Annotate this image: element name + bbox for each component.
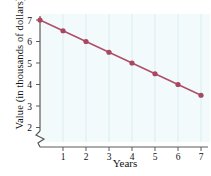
data-point: [129, 60, 134, 65]
y-tick-label-2: 2: [27, 123, 32, 133]
plot-background: [40, 14, 210, 142]
y-tick-label-3: 3: [27, 102, 32, 112]
x-axis-ticks: [63, 147, 201, 151]
x-tick-label-1: 1: [61, 152, 66, 162]
y-tick-label-4: 4: [27, 80, 32, 90]
y-tick-label-5: 5: [27, 59, 32, 69]
data-point: [198, 93, 203, 98]
x-tick-label-6: 6: [176, 152, 181, 162]
x-tick-label-5: 5: [153, 152, 158, 162]
data-point: [106, 50, 111, 55]
data-point: [60, 28, 65, 33]
depreciation-line-chart: Value (in thousands of dollars) Years 7: [0, 0, 211, 176]
y-tick-label-7: 7: [27, 16, 32, 26]
data-point: [37, 17, 42, 22]
y-axis-tick-labels: 7 6 5 4 3 2: [27, 16, 32, 134]
data-point: [175, 82, 180, 87]
y-tick-label-6: 6: [27, 37, 32, 47]
data-point: [83, 39, 88, 44]
x-tick-label-7: 7: [199, 152, 204, 162]
plot-area: 7 6 5 4 3 2 1 2 3 4 5 6 7: [0, 0, 211, 176]
data-point: [152, 71, 157, 76]
x-axis-tick-labels: 1 2 3 4 5 6 7: [61, 152, 204, 162]
x-tick-label-3: 3: [107, 152, 112, 162]
x-tick-label-2: 2: [84, 152, 89, 162]
x-tick-label-4: 4: [130, 152, 135, 162]
